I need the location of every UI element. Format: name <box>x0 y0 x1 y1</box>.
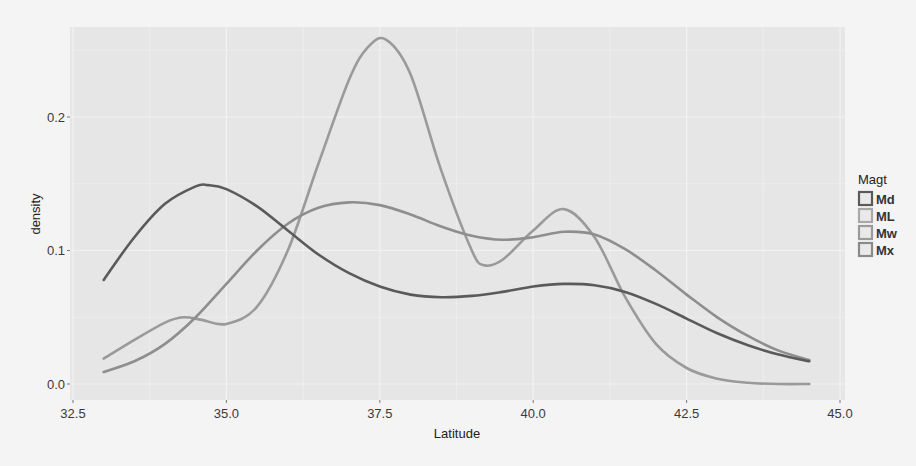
x-axis: 32.535.037.540.042.545.0 <box>60 400 852 421</box>
legend-label-ml: ML <box>876 209 895 224</box>
y-axis: 0.00.10.2 <box>47 110 70 392</box>
x-tick-label: 40.0 <box>521 406 546 421</box>
density-chart: 32.535.037.540.042.545.0 0.00.10.2 Latit… <box>0 0 916 466</box>
legend-swatch-ml <box>859 209 872 222</box>
x-tick-label: 42.5 <box>674 406 699 421</box>
x-tick-label: 45.0 <box>827 406 852 421</box>
x-tick-label: 37.5 <box>367 406 392 421</box>
x-tick-label: 35.0 <box>214 406 239 421</box>
y-tick-label: 0.0 <box>47 377 65 392</box>
legend-swatch-mw <box>859 226 872 239</box>
y-tick-label: 0.2 <box>47 110 65 125</box>
legend-swatch-md <box>859 192 872 205</box>
legend-swatch-mx <box>859 243 872 256</box>
y-axis-title: density <box>28 193 43 235</box>
legend-label-mx: Mx <box>876 243 895 258</box>
legend: Magt MdMLMwMx <box>858 172 898 258</box>
legend-title: Magt <box>858 172 887 187</box>
x-tick-label: 32.5 <box>60 406 85 421</box>
legend-label-mw: Mw <box>876 226 898 241</box>
legend-label-md: Md <box>876 192 895 207</box>
y-tick-label: 0.1 <box>47 243 65 258</box>
x-axis-title: Latitude <box>434 426 480 441</box>
